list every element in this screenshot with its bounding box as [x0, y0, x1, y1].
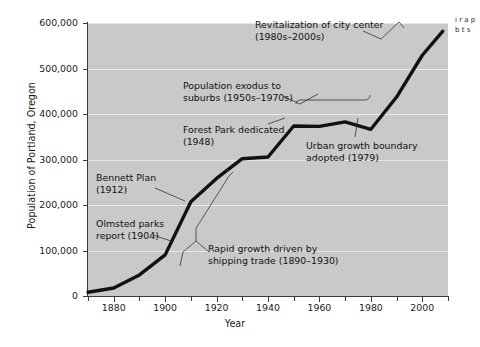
- x-tick-1970: [345, 297, 346, 301]
- y-tick-400000: [83, 114, 88, 115]
- y-tick-label-600000: 600,000: [0, 17, 78, 28]
- x-tick-1910: [191, 297, 192, 301]
- side-caption-clipped: i r a p b t s: [455, 16, 480, 112]
- annotation-revitalization: Revitalization of city center (1980s–200…: [255, 19, 383, 43]
- y-tick-600000: [83, 23, 88, 24]
- x-axis-title: Year: [0, 318, 470, 329]
- y-tick-100000: [83, 251, 88, 252]
- x-tick-label-2000: 2000: [410, 302, 434, 313]
- annotation-urban-growth: Urban growth boundary adopted (1979): [306, 140, 418, 164]
- x-tick-1990: [397, 297, 398, 301]
- y-tick-200000: [83, 205, 88, 206]
- annotation-population-exodus: Population exodus to suburbs (1950s–1970…: [183, 80, 293, 104]
- y-tick-label-100000: 100,000: [0, 245, 78, 256]
- y-axis-title: Population of Portland, Oregon: [26, 31, 37, 281]
- y-tick-label-500000: 500,000: [0, 63, 78, 74]
- x-tick-1870: [88, 297, 89, 301]
- gridline-500000: [88, 69, 448, 70]
- y-tick-500000: [83, 69, 88, 70]
- x-tick-1890: [139, 297, 140, 301]
- y-tick-label-400000: 400,000: [0, 108, 78, 119]
- x-tick-label-1900: 1900: [153, 302, 177, 313]
- x-tick-label-1960: 1960: [307, 302, 331, 313]
- x-tick-label-1940: 1940: [256, 302, 280, 313]
- y-tick-label-300000: 300,000: [0, 154, 78, 165]
- annotation-olmsted-parks: Olmsted parks report (1904): [96, 218, 164, 242]
- y-tick-300000: [83, 160, 88, 161]
- x-tick-label-1880: 1880: [102, 302, 126, 313]
- annotation-forest-park: Forest Park dedicated (1948): [183, 124, 285, 148]
- x-tick-1930: [242, 297, 243, 301]
- y-tick-label-200000: 200,000: [0, 199, 78, 210]
- gridline-400000: [88, 114, 448, 115]
- y-tick-label-0: 0: [0, 290, 78, 301]
- x-tick-2010: [448, 297, 449, 301]
- x-tick-1950: [294, 297, 295, 301]
- x-tick-label-1920: 1920: [205, 302, 229, 313]
- annotation-bennett-plan: Bennett Plan (1912): [96, 172, 156, 196]
- annotation-rapid-growth: Rapid growth driven by shipping trade (1…: [208, 243, 339, 267]
- x-tick-label-1980: 1980: [359, 302, 383, 313]
- gridline-200000: [88, 205, 448, 206]
